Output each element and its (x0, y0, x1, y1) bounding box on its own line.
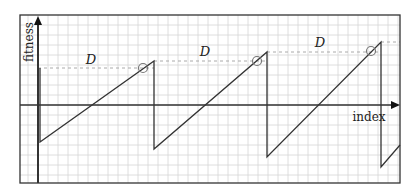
distance-label-d-3: D (314, 35, 326, 50)
distance-label-d-2: D (199, 44, 211, 59)
axes (20, 16, 400, 183)
x-axis-label: index (352, 110, 385, 124)
grid (20, 15, 400, 183)
frame-border (20, 15, 400, 183)
distance-label-d-1: D (85, 52, 97, 67)
y-axis-label: fitness (22, 22, 36, 62)
sawtooth-diagram: fitness index D D D (0, 0, 419, 191)
peak-markers (139, 47, 376, 73)
